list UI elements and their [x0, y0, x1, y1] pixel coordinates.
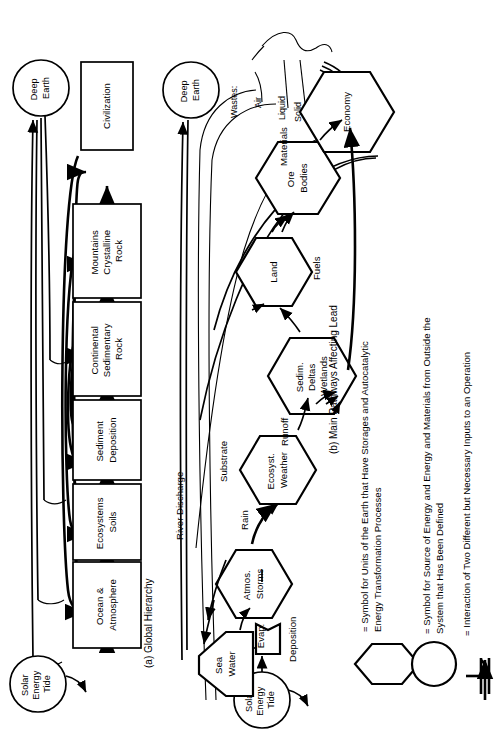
hex-label: Ore — [285, 171, 296, 187]
deep-earth-circle-b: Deep Earth — [163, 62, 219, 118]
svg-text:Sedim. Deltas: Sedim. Deltas Wetlands — [294, 356, 329, 396]
interaction-symbol — [466, 658, 489, 700]
hex-label: Bodies — [298, 163, 309, 193]
label-deposition: Deposition — [287, 617, 298, 662]
box-label: Soils — [107, 511, 118, 532]
tank-label: Sea — [213, 656, 224, 674]
box-label: Sediment — [94, 421, 105, 462]
tank-sea-water: Sea Water — [199, 632, 253, 696]
svg-text:Economy: Economy — [341, 92, 352, 132]
energy-systems-diagram: Deep Earth Solar Energy Tide Ocean & Atm… — [0, 0, 500, 740]
deep-earth-line-1: Deep — [179, 80, 189, 102]
hex-label: Weather — [278, 451, 289, 488]
box-label: Atmosphere — [107, 579, 118, 631]
legend-hexagon-line-2: Energy Transformation Processes — [372, 487, 383, 632]
box-label: Civilization — [101, 83, 112, 129]
hex-economy: Economy — [300, 72, 394, 152]
solar-line-1: Solar — [20, 675, 30, 696]
legend: = Symbol for Units of the Earth that Hav… — [355, 318, 489, 701]
hex-atmos-storms: Atmos. Storms — [216, 550, 292, 618]
box-sediment-deposition: Sediment Deposition — [73, 400, 141, 480]
diagram-canvas: Deep Earth Solar Energy Tide Ocean & Atm… — [0, 0, 500, 740]
deep-earth-line-2: Earth — [41, 77, 51, 99]
hex-label: Ecosyst. — [265, 453, 276, 489]
circle-symbol — [412, 642, 456, 686]
box-ecosystems-soils: Ecosystems Soils — [73, 484, 141, 560]
box-label: Rock — [113, 240, 124, 262]
label-rain: Rain — [239, 510, 250, 530]
box-label: Ecosystems — [94, 497, 105, 549]
hexagon-symbol — [355, 644, 419, 684]
hex-ecosyst-weather: Ecosyst. Weather — [240, 436, 316, 504]
solar-line-2: Energy — [255, 686, 265, 716]
svg-text:Civilization: Civilization — [101, 83, 112, 129]
box-label: Deposition — [107, 417, 118, 462]
solar-line-3: Tide — [42, 675, 52, 693]
box-label: Continental — [89, 326, 100, 375]
waste-item-liquid: Liquid — [277, 96, 287, 120]
legend-item-hexagon: = Symbol for Units of the Earth that Hav… — [355, 341, 419, 684]
label-river-discharge: River Discharge — [174, 472, 185, 540]
waste-item-air: Air — [253, 97, 263, 108]
box-civilization: Civilization — [81, 62, 133, 150]
tank-label: Water — [226, 651, 237, 677]
legend-interaction-line-1: = Interaction of Two Different but Neces… — [461, 352, 472, 636]
wastes-title: Wastes: — [229, 86, 239, 118]
hex-label: Sedim. — [294, 362, 305, 392]
evap-label: Evap. — [255, 624, 266, 649]
box-ocean-atmosphere: Ocean & Atmosphere — [73, 562, 141, 648]
legend-item-interaction: = Interaction of Two Different but Neces… — [461, 352, 489, 700]
panel-b-caption: (b) Main Pathways Affecting Lead — [328, 305, 339, 454]
panel-a-boxes: Ocean & Atmosphere Ecosystems Soils Sedi… — [73, 62, 141, 648]
legend-item-circle: = Symbol for Source of Energy and Energy… — [412, 318, 456, 687]
hex-label: Land — [268, 261, 279, 282]
legend-circle-line-1: = Symbol for Source of Energy and Energy… — [421, 318, 432, 635]
legend-circle-line-2: System that Has Been Defined — [434, 503, 445, 634]
box-label: Rock — [113, 338, 124, 360]
box-mountains-crystalline-rock: Mountains Crystalline Rock — [73, 204, 141, 298]
hex-label: Economy — [341, 92, 352, 132]
panel-a-caption: (a) Global Hierarchy — [143, 579, 154, 668]
box-label: Sedimentary — [101, 323, 112, 377]
label-runoff: Runoff — [279, 418, 290, 446]
box-label: Crystalline — [101, 230, 112, 275]
deep-earth-circle-a: Deep Earth — [13, 60, 69, 116]
svg-text:Land: Land — [268, 261, 279, 282]
panel-a-deep-earth-returns — [31, 116, 70, 666]
solar-source-circle-a: Solar Energy Tide — [10, 656, 86, 712]
hex-label: Deltas — [306, 364, 317, 391]
deep-earth-line-1: Deep — [29, 78, 39, 100]
hex-sedim-deltas-wetlands: Sedim. Deltas Wetlands — [268, 338, 356, 414]
box-label: Mountains — [89, 230, 100, 274]
deep-earth-line-2: Earth — [191, 79, 201, 101]
label-fuels: Fuels — [311, 256, 322, 280]
label-substrate: Substrate — [218, 441, 229, 482]
panel-a: Deep Earth Solar Energy Tide Ocean & Atm… — [10, 60, 154, 712]
box-continental-sedimentary-rock: Continental Sedimentary Rock — [73, 302, 141, 396]
solar-line-3: Tide — [266, 691, 276, 709]
label-materials: Materials — [278, 127, 289, 166]
legend-hexagon-line-1: = Symbol for Units of the Earth that Hav… — [359, 341, 370, 632]
hex-label: Storms — [254, 569, 265, 600]
hex-label: Atmos. — [241, 570, 252, 600]
box-label: Ocean & — [94, 587, 105, 625]
solar-line-2: Energy — [31, 670, 41, 700]
